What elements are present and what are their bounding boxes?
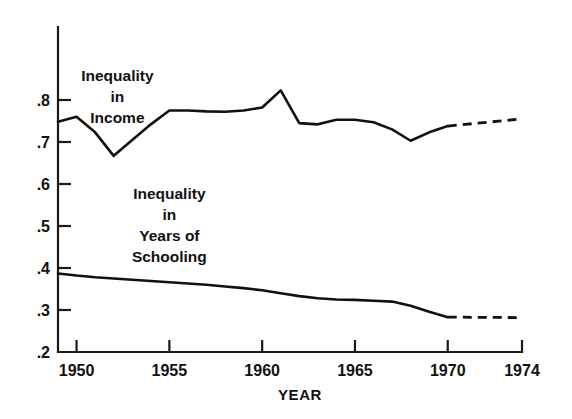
schooling-series-label-line-1: Inequality [133, 185, 206, 202]
inequality-chart: .2.3.4.5.6.7.8 195019551960196519701974 … [0, 0, 572, 419]
y-tick-label-.5: .5 [37, 218, 50, 235]
chart-canvas: .2.3.4.5.6.7.8 195019551960196519701974 … [0, 0, 572, 419]
x-tick-label-1974: 1974 [504, 362, 540, 379]
income-series-label-line-1: Inequality [81, 67, 154, 84]
schooling-series-label-line-3: Years of [139, 227, 200, 244]
y-tick-label-.8: .8 [37, 92, 50, 109]
y-tick-label-.2: .2 [37, 344, 50, 361]
y-tick-label-.4: .4 [37, 260, 50, 277]
y-tick-label-.6: .6 [37, 176, 50, 193]
x-tick-group [77, 340, 522, 352]
schooling-series-label: InequalityinYears ofSchooling [132, 185, 207, 265]
x-tick-label-1965: 1965 [337, 362, 373, 379]
y-tick-label-.7: .7 [37, 134, 50, 151]
x-tick-label-1960: 1960 [244, 362, 280, 379]
x-tick-label-group: 195019551960196519701974 [59, 362, 540, 379]
income-series-label-line-2: in [110, 88, 124, 105]
x-tick-label-1950: 1950 [59, 362, 95, 379]
series-inequality-in-years-of-schooling [58, 273, 448, 317]
income-series-label-line-3: Income [90, 109, 145, 126]
income-series-label: InequalityinIncome [81, 67, 154, 126]
y-tick-label-group: .2.3.4.5.6.7.8 [37, 92, 50, 361]
x-tick-label-1955: 1955 [152, 362, 188, 379]
y-tick-group [58, 100, 71, 310]
schooling-series-label-line-2: in [162, 206, 176, 223]
series-annotation-group: InequalityinIncomeInequalityinYears ofSc… [81, 67, 207, 265]
x-tick-label-1970: 1970 [430, 362, 466, 379]
y-tick-label-.3: .3 [37, 302, 50, 319]
series-inequality-in-income-projected [448, 119, 522, 126]
schooling-series-label-line-4: Schooling [132, 248, 207, 265]
x-axis-title: YEAR [278, 386, 322, 403]
